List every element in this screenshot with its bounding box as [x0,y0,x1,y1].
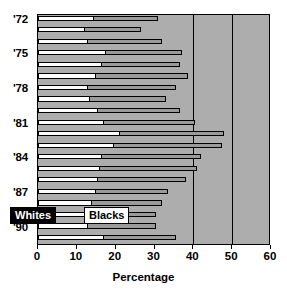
x-axis-tick-label: 30 [147,251,160,263]
bar-row [38,223,270,228]
bar-row [38,189,270,194]
bar-whites [38,177,98,182]
x-axis-title: Percentage [0,272,287,284]
x-axis-tick-label: 40 [186,251,199,263]
x-axis-tick [192,245,193,249]
bar-whites [38,143,114,148]
bar-row [38,154,270,159]
bar-row [38,200,270,205]
bar-whites [38,62,102,67]
bar-row [38,235,270,240]
x-axis-tick [76,245,77,249]
bar-whites [38,16,94,21]
bar-row [38,143,270,148]
bar-row [38,39,270,44]
bar-whites [38,39,88,44]
x-axis-tick [37,245,38,249]
bar-row [38,27,270,32]
y-axis-tick-label: '78 [13,83,28,95]
bar-whites [38,166,100,171]
x-axis-tick [270,245,271,249]
bar-whites [38,108,98,113]
bar-chart: '72'75'78'81'84'87'90 Whites Blacks 0102… [0,0,287,298]
x-axis-tick [115,245,116,249]
plot-area [37,14,270,245]
bar-whites [38,200,92,205]
bar-row [38,96,270,101]
x-axis-tick [154,245,155,249]
x-axis: 0102030405060 [37,245,270,246]
bar-whites [38,223,88,228]
x-axis-tick-label: 20 [108,251,121,263]
x-axis-tick-label: 0 [34,251,40,263]
bar-row [38,50,270,55]
bar-row [38,120,270,125]
x-axis-tick [231,245,232,249]
bar-whites [38,235,104,240]
bar-whites [38,85,88,90]
x-axis-tick-label: 10 [69,251,82,263]
bar-row [38,108,270,113]
bar-whites [38,96,90,101]
bar-row [38,73,270,78]
bar-whites [38,154,102,159]
bar-row [38,166,270,171]
bar-whites [38,27,85,32]
x-axis-tick-label: 50 [225,251,238,263]
x-axis-tick-label: 60 [264,251,277,263]
bar-row [38,62,270,67]
bar-whites [38,50,106,55]
bar-row [38,131,270,136]
bar-whites [38,120,104,125]
y-axis-tick-label: '75 [13,48,28,60]
bar-row [38,177,270,182]
legend-item-whites: Whites [10,207,56,224]
bar-whites [38,73,96,78]
y-axis-tick-label: '84 [13,152,28,164]
bar-row [38,16,270,21]
bar-whites [38,131,120,136]
y-axis-tick-label: '81 [13,118,28,130]
bar-row [38,85,270,90]
bar-rows [38,15,269,244]
y-axis-tick-label: '87 [13,187,28,199]
legend-item-blacks: Blacks [84,207,129,224]
bar-whites [38,189,96,194]
bar-row [38,212,270,217]
y-axis-tick-label: '72 [13,14,28,26]
